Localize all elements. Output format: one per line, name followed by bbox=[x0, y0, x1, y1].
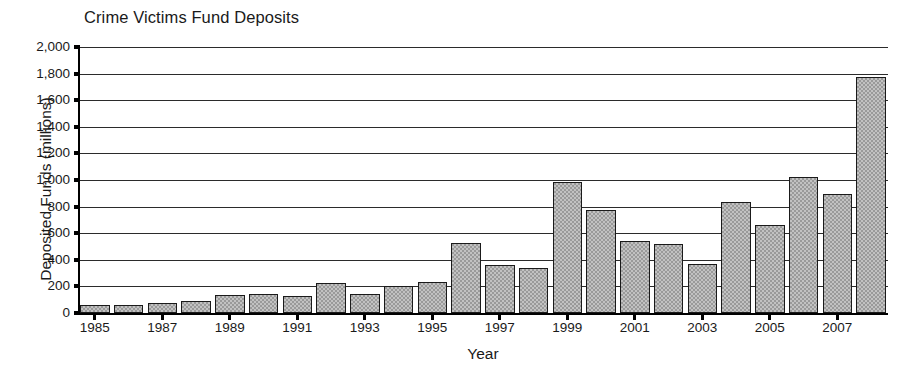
x-tick-mark bbox=[93, 313, 96, 320]
y-tick-label: 1,200 bbox=[8, 146, 70, 160]
y-tick-mark bbox=[74, 284, 80, 288]
bar-2001 bbox=[620, 241, 650, 313]
x-tick-label: 2003 bbox=[672, 320, 732, 335]
y-tick-mark bbox=[74, 258, 80, 262]
bar-1987 bbox=[148, 303, 178, 313]
bar-1991 bbox=[283, 296, 313, 313]
bar-1993 bbox=[350, 294, 380, 313]
x-tick-label: 1987 bbox=[132, 320, 192, 335]
bar-2004 bbox=[721, 202, 751, 313]
y-tick-label: 2,000 bbox=[8, 40, 70, 54]
x-tick-mark bbox=[363, 313, 366, 320]
x-tick-label: 1991 bbox=[267, 320, 327, 335]
x-tick-label: 1999 bbox=[537, 320, 597, 335]
x-tick-mark bbox=[498, 313, 501, 320]
x-tick-label: 2001 bbox=[605, 320, 665, 335]
gridline bbox=[78, 74, 888, 75]
plot-area bbox=[78, 47, 888, 313]
bar-1997 bbox=[485, 265, 515, 313]
y-tick-label: 800 bbox=[8, 200, 70, 214]
y-tick-mark bbox=[74, 151, 80, 155]
gridline bbox=[78, 313, 888, 315]
x-tick-label: 1993 bbox=[335, 320, 395, 335]
y-tick-label: 1,400 bbox=[8, 120, 70, 134]
y-tick-label: 0 bbox=[8, 306, 70, 320]
y-tick-label: 400 bbox=[8, 253, 70, 267]
x-tick-mark bbox=[566, 313, 569, 320]
y-tick-mark bbox=[74, 45, 80, 49]
bar-2000 bbox=[586, 210, 616, 313]
y-tick-mark bbox=[74, 125, 80, 129]
bar-1989 bbox=[215, 295, 245, 313]
gridline bbox=[78, 47, 888, 48]
y-tick-label: 1,600 bbox=[8, 93, 70, 107]
bar-2006 bbox=[789, 177, 819, 313]
bar-1996 bbox=[451, 243, 481, 313]
bar-2007 bbox=[823, 194, 853, 313]
y-tick-mark bbox=[74, 98, 80, 102]
gridline bbox=[78, 127, 888, 128]
x-tick-mark bbox=[296, 313, 299, 320]
x-tick-mark bbox=[228, 313, 231, 320]
bar-1992 bbox=[316, 283, 346, 313]
x-tick-mark bbox=[431, 313, 434, 320]
y-tick-label: 600 bbox=[8, 226, 70, 240]
y-tick-mark bbox=[74, 178, 80, 182]
x-tick-label: 1995 bbox=[402, 320, 462, 335]
bar-1988 bbox=[181, 301, 211, 313]
y-tick-mark bbox=[74, 205, 80, 209]
bar-1998 bbox=[519, 268, 549, 313]
gridline bbox=[78, 180, 888, 181]
gridline bbox=[78, 207, 888, 208]
bar-1995 bbox=[418, 282, 448, 313]
bar-1990 bbox=[249, 294, 279, 313]
x-tick-mark bbox=[701, 313, 704, 320]
chart-title: Crime Victims Fund Deposits bbox=[84, 8, 299, 27]
x-tick-label: 2005 bbox=[740, 320, 800, 335]
x-tick-mark bbox=[161, 313, 164, 320]
bar-chart-figure: Crime Victims Fund Deposits Deposited Fu… bbox=[0, 0, 906, 374]
bar-1986 bbox=[114, 305, 144, 313]
bar-2005 bbox=[755, 225, 785, 313]
y-tick-mark bbox=[74, 72, 80, 76]
x-tick-mark bbox=[768, 313, 771, 320]
x-tick-label: 1985 bbox=[65, 320, 125, 335]
bar-2002 bbox=[654, 244, 684, 313]
bar-1999 bbox=[553, 182, 583, 313]
gridline bbox=[78, 153, 888, 154]
y-tick-mark bbox=[74, 231, 80, 235]
bar-1994 bbox=[384, 286, 414, 313]
y-tick-mark bbox=[74, 311, 80, 315]
y-tick-label: 1,800 bbox=[8, 67, 70, 81]
y-tick-label: 1,000 bbox=[8, 173, 70, 187]
x-axis-title: Year bbox=[78, 345, 888, 363]
x-tick-mark bbox=[836, 313, 839, 320]
x-tick-label: 2007 bbox=[807, 320, 867, 335]
x-tick-mark bbox=[633, 313, 636, 320]
bar-2003 bbox=[688, 264, 718, 313]
x-tick-label: 1997 bbox=[470, 320, 530, 335]
gridline bbox=[78, 100, 888, 101]
x-tick-label: 1989 bbox=[200, 320, 260, 335]
y-tick-label: 200 bbox=[8, 279, 70, 293]
bar-2008 bbox=[856, 77, 886, 313]
bar-1985 bbox=[80, 305, 110, 313]
